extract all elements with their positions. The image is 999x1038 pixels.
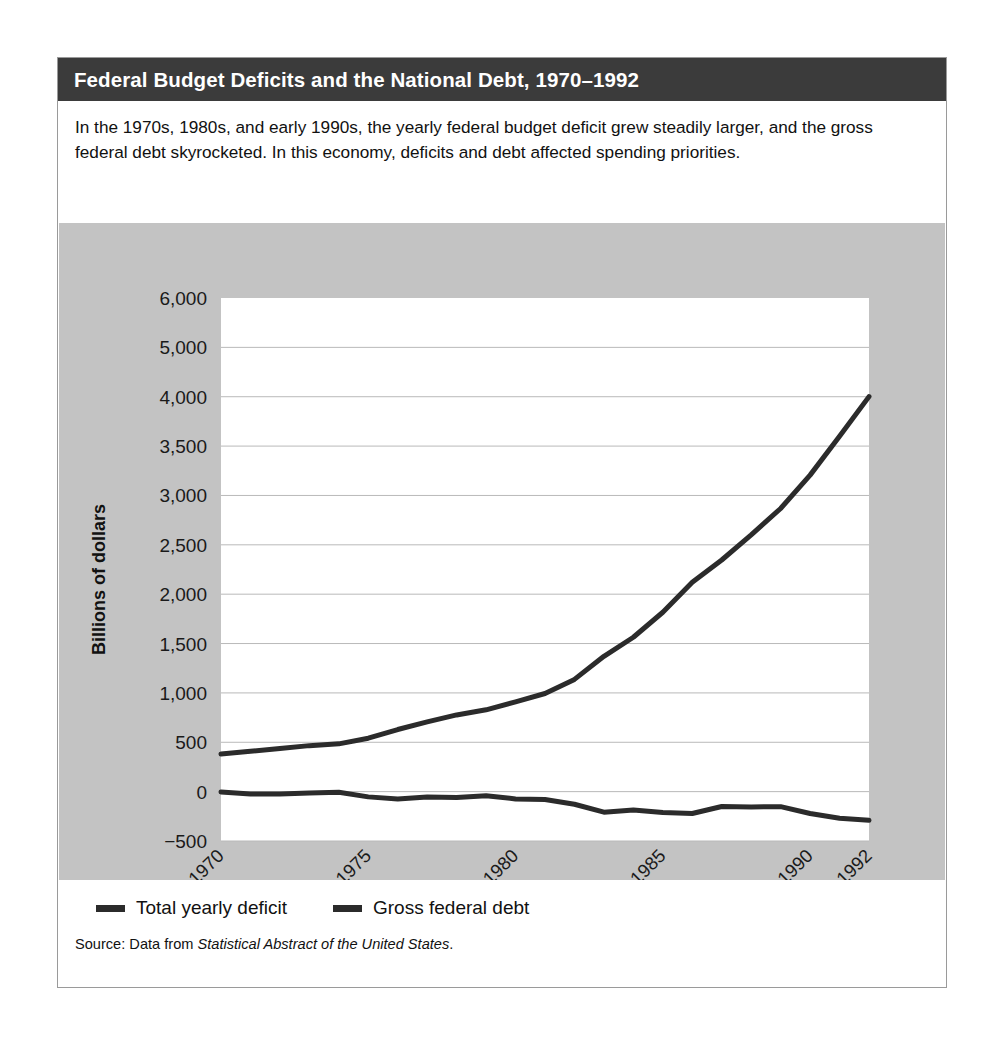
chart-legend: Total yearly deficit Gross federal debt xyxy=(58,880,946,936)
y-axis-tick-label: 5,000 xyxy=(159,337,207,358)
legend-line-swatch-icon xyxy=(96,905,125,912)
x-axis-tick-label: 1980 xyxy=(478,845,522,880)
y-axis-tick-label: 3,500 xyxy=(159,436,207,457)
legend-label: Total yearly deficit xyxy=(136,897,287,919)
page-title: Federal Budget Deficits and the National… xyxy=(58,68,639,92)
source-suffix: . xyxy=(449,936,453,952)
y-axis-title: Billions of dollars xyxy=(89,504,109,655)
source-title: Statistical Abstract of the United State… xyxy=(197,936,449,952)
y-axis-tick-label: 2,000 xyxy=(159,584,207,605)
chart-canvas: 6,0005,0004,0003,5003,0002,5002,0001,500… xyxy=(59,223,945,880)
x-axis-tick-label: 1985 xyxy=(626,845,670,880)
legend-label: Gross federal debt xyxy=(373,897,529,919)
line-chart: 6,0005,0004,0003,5003,0002,5002,0001,500… xyxy=(59,223,945,880)
y-axis-tick-label: 4,000 xyxy=(159,387,207,408)
chart-panel: 6,0005,0004,0003,5003,0002,5002,0001,500… xyxy=(59,223,945,880)
figure-frame: Federal Budget Deficits and the National… xyxy=(57,57,947,988)
legend-item-total-yearly-deficit: Total yearly deficit xyxy=(96,897,287,919)
y-axis-tick-label: 0 xyxy=(196,782,207,803)
x-axis-tick-label: 1990 xyxy=(773,845,817,880)
source-note: Source: Data from Statistical Abstract o… xyxy=(58,936,946,952)
legend-item-gross-federal-debt: Gross federal debt xyxy=(333,897,529,919)
plot-area xyxy=(221,298,869,841)
source-prefix: Source: Data from xyxy=(75,936,197,952)
y-axis-tick-label: 2,500 xyxy=(159,535,207,556)
y-axis-tick-label: −500 xyxy=(164,831,207,852)
figure-caption: In the 1970s, 1980s, and early 1990s, th… xyxy=(58,101,946,176)
y-axis-tick-label: 1,500 xyxy=(159,634,207,655)
x-axis-tick-label: 1975 xyxy=(331,845,375,880)
y-axis-tick-label: 3,000 xyxy=(159,485,207,506)
y-axis-tick-label: 6,000 xyxy=(159,288,207,309)
figure-title-bar: Federal Budget Deficits and the National… xyxy=(58,58,946,101)
x-axis-tick-label: 1992 xyxy=(832,845,876,880)
legend-line-swatch-icon xyxy=(333,905,362,912)
y-axis-tick-label: 1,000 xyxy=(159,683,207,704)
y-axis-tick-label: 500 xyxy=(175,732,207,753)
